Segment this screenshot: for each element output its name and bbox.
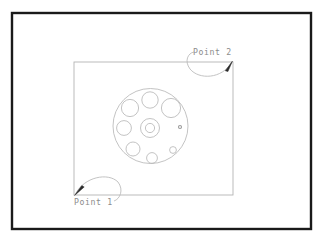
hub-bore-circle	[145, 123, 154, 132]
bolt-hole-small-right	[170, 147, 177, 154]
bolt-hole-lower-left	[126, 142, 140, 156]
arrowhead-point-1-icon	[75, 186, 85, 196]
bolt-hole-bottom	[147, 153, 158, 164]
circular-flange-part[interactable]	[113, 89, 188, 164]
hub-outer-circle	[141, 119, 160, 138]
selection-rectangle[interactable]	[74, 62, 233, 195]
drawing-canvas: Point 2 Point 1	[0, 0, 324, 242]
point-1-label: Point 1	[74, 197, 113, 207]
point-2-label: Point 2	[193, 47, 232, 57]
bolt-hole-top	[142, 92, 158, 108]
bolt-hole-left	[117, 121, 132, 136]
center-mark-icon	[179, 126, 182, 129]
technical-drawing: Point 2 Point 1	[0, 0, 324, 242]
arrowhead-point-2-icon	[225, 61, 232, 71]
bolt-hole-upper-right	[161, 98, 180, 117]
part-outer-circle	[113, 89, 188, 164]
outer-frame	[12, 13, 311, 229]
bolt-hole-upper-left	[121, 99, 138, 116]
